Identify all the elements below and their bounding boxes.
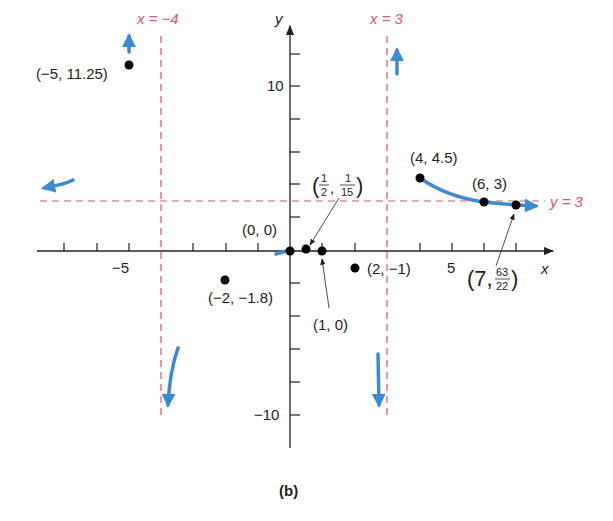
arrow-x3-left-down [378,354,379,405]
leader-half [310,198,339,245]
point-label-four: (4, 4.5) [410,149,458,166]
asymptotes [40,36,545,418]
svg-text:1: 1 [345,172,351,184]
figure-caption: (b) [279,482,298,499]
svg-text:(7,: (7, [467,266,493,291]
point-label-neg2: (−2, −1.8) [208,289,273,306]
point-label-seven: (7, 63 22 ) [467,266,518,292]
asymptote-label-y-3: y = 3 [549,193,584,210]
svg-text:2: 2 [321,186,327,198]
svg-text:(: ( [312,173,320,198]
point-2-neg1 [351,264,360,273]
tick-label-10: 10 [267,77,284,94]
tick-label-neg5: −5 [112,259,129,276]
leader-lines [310,198,514,308]
point-6-3 [480,198,489,207]
axes [37,26,553,448]
point-label-half: ( 1 2 , 1 15 ) [312,172,363,198]
y-axis-label: y [274,10,284,27]
leader-seven [496,214,514,266]
point-4-4.5 [416,174,425,183]
point-label-neg5: (−5, 11.25) [36,65,108,82]
asymptote-label-x-3: x = 3 [369,10,404,27]
tick-label-neg10: −10 [254,406,279,423]
arrow-left-of-asymptote-down [168,348,178,405]
svg-text:,: , [330,179,334,196]
point-0-0 [286,247,295,256]
tick-label-5: 5 [447,259,455,276]
svg-text:15: 15 [341,186,353,198]
svg-text:): ) [356,173,363,198]
point-half-1over15 [302,245,311,254]
y-ticks [290,54,300,415]
point-neg2-neg1.8 [221,276,230,285]
point-label-two: (2, −1) [367,260,411,277]
x-axis-label: x [540,260,549,277]
arrow-far-left [44,180,73,188]
point-label-one: (1, 0) [313,316,348,333]
point-7-63over22 [512,201,521,210]
point-label-origin: (0, 0) [242,221,277,238]
leader-one [322,259,329,308]
svg-text:): ) [511,266,518,291]
asymptote-label-x-neg4: x = −4 [136,10,179,27]
svg-text:1: 1 [321,172,327,184]
point-neg5-11.25 [125,61,134,70]
svg-text:22: 22 [496,280,508,292]
svg-text:63: 63 [496,266,508,278]
point-label-six: (6, 3) [472,175,507,192]
rational-function-graph: x = −4 x = 3 y = 3 y x −5 5 10 −10 (−5, … [0,0,613,521]
point-1-0 [318,247,327,256]
